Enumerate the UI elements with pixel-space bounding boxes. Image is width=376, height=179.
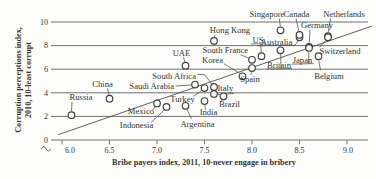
x-axis-title: Bribe payers index, 2011, 10-never engag… xyxy=(112,158,297,167)
x-tick-label-6: 6.0 xyxy=(65,146,75,155)
leader-hong-kong xyxy=(214,35,215,37)
point-label-china: China xyxy=(92,79,113,89)
data-point-japan xyxy=(306,45,313,52)
point-label-hong-kong: Hong Kong xyxy=(210,25,251,35)
y-tick-label-4: 4 xyxy=(44,89,48,98)
x-tick-label-7.5: 7.5 xyxy=(200,146,210,155)
point-label-canada: Canada xyxy=(284,9,310,19)
data-point-india xyxy=(201,98,208,105)
y-tick-label-6: 6 xyxy=(44,65,48,74)
x-tick-label-8: 8.0 xyxy=(247,146,257,155)
data-point-uae xyxy=(182,62,189,69)
point-label-russia: Russia xyxy=(70,92,93,102)
data-point-hong-kong xyxy=(211,38,218,45)
point-label-saudi-arabia: Saudi Arabia xyxy=(129,81,174,91)
data-point-russia xyxy=(68,112,75,119)
point-label-south-korea: South xyxy=(202,45,223,55)
point-label-mexico: Mexico xyxy=(128,106,154,116)
leader-canada xyxy=(296,19,299,32)
y-tick-label-8: 8 xyxy=(44,41,48,50)
leader-australia-1 xyxy=(295,40,298,45)
point-label-brazil: Brazil xyxy=(219,99,241,109)
data-point-switzerland xyxy=(325,34,332,41)
point-label-spain: Spain xyxy=(240,74,260,84)
point-label-britain: Britain xyxy=(267,60,292,70)
point-label-switzerland: Switzerland xyxy=(319,46,361,56)
point-label-belgium: Belgium xyxy=(314,71,344,81)
data-point-canada xyxy=(296,32,303,39)
point-label-argentina: Argentina xyxy=(180,119,214,129)
point-label-india: India xyxy=(200,107,218,117)
point-label-italy: Italy xyxy=(218,83,234,93)
x-axis-break-icon xyxy=(42,147,51,152)
data-point-singapore xyxy=(277,27,284,34)
point-label-germany: Germany xyxy=(301,20,334,30)
data-point-britain xyxy=(277,47,284,54)
scatter-chart-figure: 02468106.06.57.07.58.08.59.0 RussiaChina… xyxy=(0,0,376,179)
leader-singapore xyxy=(279,19,280,27)
leader-argentina xyxy=(187,109,192,118)
data-point-turkey xyxy=(201,85,208,92)
point-label-indonesia: Indonesia xyxy=(120,120,154,130)
data-point-france xyxy=(249,56,256,63)
point-label-australia: Australia xyxy=(261,37,293,47)
y-tick-label-2: 2 xyxy=(44,112,48,121)
point-label-france: France xyxy=(225,45,249,55)
x-tick-label-9: 9.0 xyxy=(343,146,353,155)
data-point-south-africa xyxy=(211,84,218,91)
leader-south-korea xyxy=(224,64,240,73)
data-point-saudi-arabia xyxy=(192,81,199,88)
point-label-south-africa: South Africa xyxy=(152,71,196,81)
x-tick-label-6.5: 6.5 xyxy=(105,146,115,155)
y-axis-title-line2: 2010, 10-least corrupt xyxy=(24,42,33,118)
leader-germany xyxy=(309,30,310,43)
y-tick-label-10: 10 xyxy=(40,18,48,27)
point-label-uae: UAE xyxy=(173,48,191,58)
y-tick-label-0: 0 xyxy=(44,136,48,145)
y-axis-title-line1: Corruption perceptions index, xyxy=(14,27,23,133)
point-label-netherlands: Netherlands xyxy=(323,9,365,19)
data-point-mexico xyxy=(154,100,161,107)
data-point-spain xyxy=(249,65,256,72)
x-tick-label-7: 7.0 xyxy=(152,146,162,155)
leader-uae xyxy=(184,57,185,62)
data-point-italy xyxy=(211,91,218,98)
data-point-indonesia xyxy=(163,104,170,111)
leader-china xyxy=(108,88,110,95)
data-point-us xyxy=(258,53,265,60)
leader-saudi-arabia xyxy=(176,85,192,86)
x-tick-label-8.5: 8.5 xyxy=(295,146,305,155)
data-point-china xyxy=(106,95,113,102)
leader-russia xyxy=(72,102,73,112)
point-label-turkey: Turkey xyxy=(170,94,195,104)
point-label-south-korea-line2: Korea xyxy=(202,55,223,65)
scatter-plot-svg: 02468106.06.57.07.58.08.59.0 RussiaChina… xyxy=(0,0,376,179)
point-label-japan: Japan xyxy=(293,55,313,65)
point-label-singapore: Singapore xyxy=(250,9,285,19)
leader-france xyxy=(241,55,249,58)
